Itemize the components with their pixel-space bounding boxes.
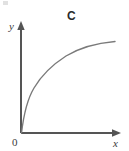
- figure-panel-c: C y x 0: [0, 0, 129, 151]
- y-axis-arrowhead: [17, 21, 24, 30]
- x-axis-group: [21, 129, 121, 136]
- data-curve: [22, 42, 116, 134]
- x-axis-label: x: [113, 138, 118, 149]
- graph-canvas: [0, 0, 129, 151]
- panel-label-c: C: [67, 10, 76, 22]
- x-axis-arrowhead: [112, 129, 121, 136]
- y-axis-label: y: [9, 21, 14, 32]
- origin-label: 0: [12, 137, 18, 148]
